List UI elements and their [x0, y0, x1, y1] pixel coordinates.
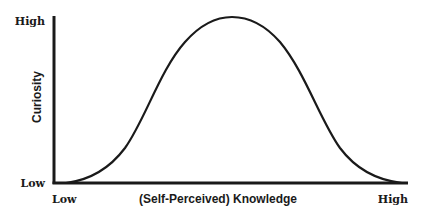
x-low-label: Low — [52, 193, 77, 206]
y-low-label: Low — [20, 177, 45, 190]
x-axis-title: (Self-Perceived) Knowledge — [139, 192, 297, 206]
y-high-label: High — [15, 15, 45, 28]
curiosity-knowledge-chart: High Low Curiosity Low High (Self-Percei… — [0, 0, 430, 217]
curiosity-curve — [66, 17, 402, 183]
x-high-label: High — [378, 193, 408, 206]
y-axis-title: Curiosity — [30, 71, 44, 123]
